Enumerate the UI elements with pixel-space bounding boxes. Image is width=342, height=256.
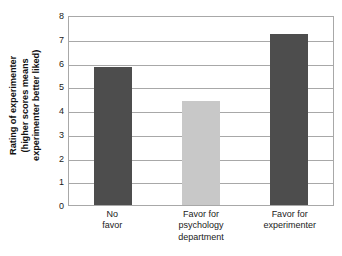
y-tick-label-8: 8 bbox=[59, 12, 64, 21]
y-tick-label-7: 7 bbox=[59, 35, 64, 44]
y-axis-title-line-3: experimenter better liked) bbox=[32, 49, 44, 160]
y-axis-title: Rating of experimenter (higher scores me… bbox=[0, 0, 52, 210]
y-tick-label-2: 2 bbox=[59, 154, 64, 163]
bar-chart-figure: Rating of experimenter (higher scores me… bbox=[0, 0, 342, 256]
plot-area bbox=[68, 16, 334, 206]
bar-1 bbox=[94, 67, 132, 205]
y-tick-label-6: 6 bbox=[59, 59, 64, 68]
x-axis-category-labels: NofavorFavor forpsychologydepartmentFavo… bbox=[68, 209, 334, 255]
y-tick-label-0: 0 bbox=[59, 202, 64, 211]
y-tick-label-1: 1 bbox=[59, 178, 64, 187]
y-tick-label-4: 4 bbox=[59, 107, 64, 116]
y-tick-label-3: 3 bbox=[59, 130, 64, 139]
bar-3 bbox=[270, 34, 308, 205]
x-category-label-2: Favor forpsychologydepartment bbox=[159, 209, 243, 243]
x-category-label-3: Favor forexperimenter bbox=[248, 209, 332, 232]
bar-2 bbox=[182, 101, 220, 206]
x-category-label-1: Nofavor bbox=[70, 209, 154, 232]
y-axis-title-line-2: (higher scores means bbox=[20, 49, 32, 160]
y-tick-label-5: 5 bbox=[59, 83, 64, 92]
bar-series bbox=[69, 17, 333, 205]
y-axis-title-line-1: Rating of experimenter bbox=[9, 49, 21, 160]
y-axis-tick-labels: 012345678 bbox=[52, 16, 67, 206]
